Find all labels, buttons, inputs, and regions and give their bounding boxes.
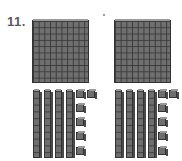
ten-rod-left-3 xyxy=(55,90,62,158)
ten-rod-right-1 xyxy=(115,90,122,158)
unit-cube-left-4 xyxy=(76,118,84,126)
ten-rod-right-4 xyxy=(148,90,155,158)
unit-cube-left-5 xyxy=(76,132,84,140)
unit-cube-right-1 xyxy=(158,90,166,98)
hundred-flat-right xyxy=(114,20,171,83)
unit-cube-left-2 xyxy=(87,90,95,98)
unit-cube-right-6 xyxy=(158,147,166,155)
unit-cube-left-3 xyxy=(76,104,84,112)
ten-rod-left-2 xyxy=(44,90,51,158)
ten-rod-left-4 xyxy=(66,90,73,158)
unit-cube-right-2 xyxy=(169,90,177,98)
hundred-flat-left xyxy=(32,20,89,83)
unit-cube-left-1 xyxy=(76,90,84,98)
ten-rod-right-3 xyxy=(137,90,144,158)
stray-dot xyxy=(103,14,105,16)
unit-cube-right-5 xyxy=(158,132,166,140)
ten-rod-left-1 xyxy=(33,90,40,158)
unit-cube-left-6 xyxy=(76,147,84,155)
unit-cube-right-4 xyxy=(158,118,166,126)
unit-cube-right-3 xyxy=(158,104,166,112)
ten-rod-right-2 xyxy=(126,90,133,158)
problem-number: 11. xyxy=(7,14,26,29)
